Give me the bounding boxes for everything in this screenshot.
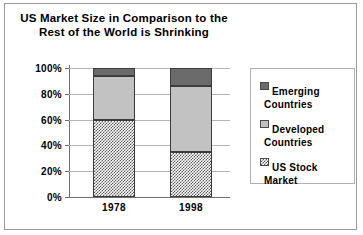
- chart-title: US Market Size in Comparison to the Rest…: [13, 11, 235, 39]
- y-tick-mark-0: [65, 197, 69, 198]
- legend-swatch-emerging-countries-icon: [260, 82, 269, 90]
- chart-legend: EmergingCountries DevelopedCountries US …: [250, 68, 355, 184]
- bar-segment-1998-developed-countries[interactable]: [170, 86, 212, 152]
- y-tick-mark-100: [65, 68, 69, 69]
- bar-segment-1978-emerging-countries[interactable]: [93, 68, 135, 76]
- bar-group-1998[interactable]: [170, 68, 212, 197]
- y-tick-mark-60: [65, 120, 69, 121]
- x-axis-line: [69, 197, 230, 198]
- bar-group-1978[interactable]: [93, 68, 135, 197]
- y-tick-label-0: 0%: [47, 192, 62, 203]
- y-tick-mark-20: [65, 171, 69, 172]
- bar-segment-1978-developed-countries[interactable]: [93, 76, 135, 120]
- x-tick-label-1978: 1978: [79, 202, 149, 213]
- bar-segment-1998-emerging-countries[interactable]: [170, 68, 212, 86]
- y-tick-label-60: 60%: [41, 114, 62, 125]
- y-tick-label-20: 20%: [41, 166, 62, 177]
- legend-swatch-developed-countries-icon: [260, 120, 269, 128]
- legend-label-emerging-countries: EmergingCountries: [260, 86, 354, 111]
- chart-title-line-1: US Market Size in Comparison to the: [13, 11, 235, 25]
- y-tick-label-100: 100%: [35, 63, 62, 74]
- chart-title-line-2: Rest of the World is Shrinking: [13, 25, 235, 39]
- y-axis-line: [69, 65, 70, 198]
- plot-area: 100% 80% 60% 40% 20% 0% 1978 1998: [69, 65, 230, 197]
- y-tick-mark-40: [65, 145, 69, 146]
- y-tick-label-80: 80%: [41, 88, 62, 99]
- legend-item-emerging-countries[interactable]: EmergingCountries: [260, 81, 354, 111]
- bar-segment-1998-us-stock-market[interactable]: [170, 152, 212, 197]
- bar-segment-1978-us-stock-market[interactable]: [93, 120, 135, 197]
- x-tick-label-1998: 1998: [156, 202, 226, 213]
- y-tick-label-40: 40%: [41, 140, 62, 151]
- legend-swatch-us-stock-market-icon: [260, 158, 269, 166]
- legend-item-developed-countries[interactable]: DevelopedCountries: [260, 119, 354, 149]
- legend-label-us-stock-market: US StockMarket: [260, 162, 354, 187]
- legend-item-us-stock-market[interactable]: US StockMarket: [260, 157, 354, 187]
- chart-page-frame: US Market Size in Comparison to the Rest…: [4, 3, 357, 230]
- y-tick-mark-80: [65, 94, 69, 95]
- legend-label-developed-countries: DevelopedCountries: [260, 124, 354, 149]
